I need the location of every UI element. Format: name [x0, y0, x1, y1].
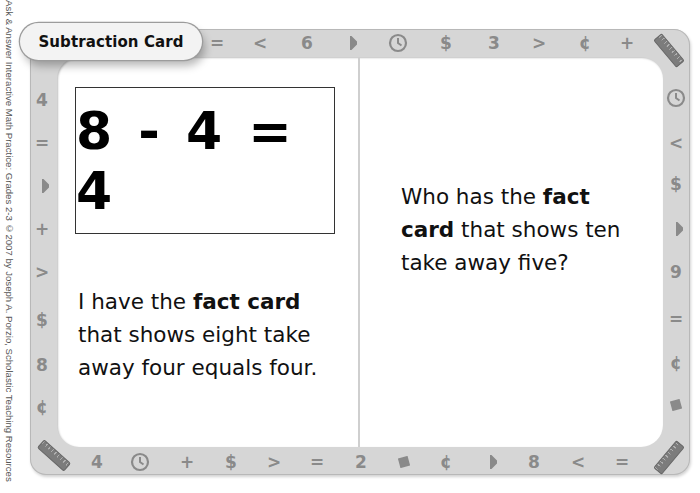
fact-equation-box: 8 - 4 = 4: [75, 87, 335, 234]
cent-symbol: ¢: [433, 450, 459, 474]
clock-icon: [385, 31, 411, 55]
greater-than-symbol: >: [29, 260, 55, 284]
dollar-symbol: $: [663, 172, 689, 196]
square-icon: [663, 393, 689, 417]
greater-than-symbol: >: [526, 31, 552, 55]
cent-symbol: ¢: [29, 395, 55, 419]
dollar-symbol: $: [433, 31, 459, 55]
question-text-pre: Who has the: [401, 184, 543, 209]
equals-symbol: =: [29, 131, 55, 155]
dollar-symbol: $: [218, 450, 244, 474]
triangle-icon: [29, 174, 55, 198]
number-four-symbol: 4: [29, 88, 55, 112]
square-icon: [391, 450, 417, 474]
answer-text-line3: away four equals four.: [78, 355, 317, 380]
equals-symbol: =: [609, 450, 635, 474]
question-text-bold1: fact: [543, 184, 590, 209]
answer-statement: I have the fact card that shows eight ta…: [78, 285, 358, 384]
greater-than-symbol: >: [261, 450, 287, 474]
answer-text-bold: fact card: [193, 289, 301, 314]
number-eight-symbol: 8: [29, 353, 55, 377]
plus-symbol: +: [174, 450, 200, 474]
triangle-icon: [663, 217, 689, 241]
fact-equation: 8 - 4 = 4: [76, 101, 334, 221]
less-than-symbol: <: [663, 131, 689, 155]
triangle-icon: [477, 450, 503, 474]
clock-icon: [663, 86, 689, 110]
question-text-line3: take away five?: [401, 250, 569, 275]
number-six-symbol: 6: [294, 31, 320, 55]
question-text-mid: that shows ten: [454, 217, 620, 242]
dollar-symbol: $: [29, 308, 55, 332]
cent-symbol: ¢: [572, 31, 598, 55]
copyright-credit-line: Ask & Answer Interactive Math Practice: …: [2, 0, 16, 493]
answer-text-pre: I have the: [78, 289, 193, 314]
number-nine-symbol: 9: [663, 260, 689, 284]
answer-text-line2: that shows eight take: [78, 322, 310, 347]
number-eight-symbol: 8: [521, 450, 547, 474]
question-statement: Who has the fact card that shows ten tak…: [401, 180, 661, 279]
equals-symbol: =: [663, 307, 689, 331]
clock-icon: [127, 450, 153, 474]
card-title-badge: Subtraction Card: [20, 23, 202, 60]
number-three-symbol: 3: [481, 31, 507, 55]
less-than-symbol: <: [247, 31, 273, 55]
equals-symbol: =: [304, 450, 330, 474]
triangle-icon: [337, 31, 363, 55]
equals-symbol: =: [204, 31, 230, 55]
less-than-symbol: <: [565, 450, 591, 474]
plus-symbol: +: [614, 31, 640, 55]
card-title: Subtraction Card: [38, 33, 183, 51]
question-text-bold2: card: [401, 217, 454, 242]
cent-symbol: ¢: [663, 351, 689, 375]
card-divider: [358, 57, 360, 447]
number-four-symbol: 4: [84, 450, 110, 474]
plus-symbol: +: [29, 217, 55, 241]
number-two-symbol: 2: [348, 450, 374, 474]
